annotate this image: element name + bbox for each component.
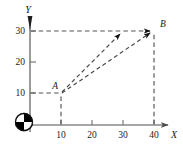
benchmark-control-point-icon <box>16 114 33 131</box>
y-tick-label-30: 30 <box>16 26 26 36</box>
point-label-b: B <box>160 19 166 29</box>
x-tick-label-30: 30 <box>118 130 128 140</box>
y-axis-arrowhead <box>28 16 33 30</box>
y-axis-ticks <box>30 31 36 93</box>
y-axis-label: Y <box>25 4 32 15</box>
x-tick-label-10: 10 <box>56 130 66 140</box>
vectors-group <box>62 33 150 93</box>
axes-group <box>22 20 168 132</box>
y-tick-labels: 10 20 30 <box>16 26 26 98</box>
y-tick-label-10: 10 <box>16 88 26 98</box>
vector-a-to-b <box>62 33 150 93</box>
projection-lines-group <box>31 31 154 124</box>
y-tick-label-20: 20 <box>16 57 26 67</box>
vector-a-to-upper <box>62 34 120 92</box>
coordinate-figure: 10 20 30 40 10 20 30 Y X A B <box>0 0 183 154</box>
point-label-a: A <box>51 81 58 91</box>
x-tick-labels: 10 20 30 40 <box>56 130 159 140</box>
x-tick-label-40: 40 <box>149 130 159 140</box>
coordinate-diagram-svg: 10 20 30 40 10 20 30 Y X A B <box>0 0 183 154</box>
x-axis-label: X <box>170 129 178 140</box>
x-tick-label-20: 20 <box>87 130 97 140</box>
